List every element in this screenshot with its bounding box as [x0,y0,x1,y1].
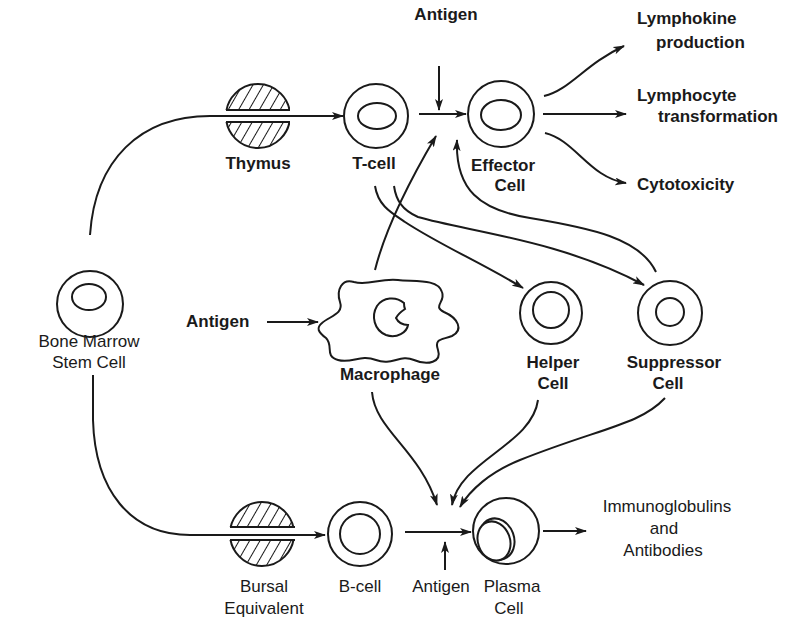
bursal-label-1: Bursal [240,577,288,596]
macrophage-node: Macrophage [319,280,459,384]
helper-label-2: Cell [537,374,568,393]
lymphocyte-label-2: transformation [658,107,778,126]
helper-node: Helper Cell [520,282,582,393]
immunoglobulins-label-3: Antibodies [623,541,702,560]
bursal-node: Bursal Equivalent [224,502,304,618]
bursal-label-2: Equivalent [224,599,304,618]
antigen-mid-label: Antigen [186,312,249,331]
effector-label-1: Effector [471,156,536,175]
lymphokine-label-1: Lymphokine [637,9,737,28]
suppressor-node: Suppressor Cell [627,281,722,393]
immune-cell-diagram: Bone Marrow Stem Cell Thymus T-cell Anti… [0,0,811,638]
effector-label-2: Cell [494,176,525,195]
immunoglobulins-label-1: Immunoglobulins [603,497,732,516]
edge-tcell-to-helper [375,186,523,288]
helper-label-1: Helper [527,353,580,372]
edge-effector-to-lymphokine [544,46,624,96]
stem-cell-label-1: Bone Marrow [38,332,140,351]
macrophage-label: Macrophage [340,365,440,384]
plasma-node: Plasma Cell [472,498,541,618]
antigen-top-label: Antigen [414,5,477,24]
suppressor-label-1: Suppressor [627,353,722,372]
tcell-node: T-cell [344,84,408,173]
edge-effector-to-cytotoxicity [545,133,626,183]
tcell-label: T-cell [352,154,395,173]
lymphokine-label-2: production [656,33,745,52]
effector-node: Effector Cell [468,81,535,195]
edge-suppressor-to-plasma [460,398,665,507]
thymus-label: Thymus [225,154,290,173]
bcell-node: B-cell [328,502,392,596]
thymus-node: Thymus [225,84,290,173]
edge-stem-to-tcell [90,116,343,235]
stem-cell-node: Bone Marrow Stem Cell [38,271,140,372]
suppressor-label-2: Cell [652,374,683,393]
bcell-label: B-cell [339,577,382,596]
immunoglobulins-label-2: and [650,519,678,538]
edge-stem-to-bcell [93,375,325,535]
cytotoxicity-label: Cytotoxicity [637,175,735,194]
edge-macrophage-to-plasma [372,392,437,505]
antigen-bottom-label: Antigen [412,577,470,596]
plasma-label-1: Plasma [484,577,541,596]
edge-helper-to-plasma [452,400,538,505]
plasma-label-2: Cell [494,599,523,618]
stem-cell-label-2: Stem Cell [52,353,126,372]
lymphocyte-label-1: Lymphocyte [637,86,737,105]
